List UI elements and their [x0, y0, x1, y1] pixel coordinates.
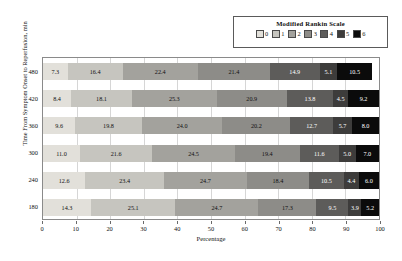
legend-item-5[interactable]: 5 — [337, 30, 350, 38]
legend-item-4[interactable]: 4 — [320, 30, 333, 38]
bar-segment-180-mrs6[interactable]: 5.2 — [361, 199, 378, 216]
legend-label-6: 6 — [362, 30, 365, 38]
bar-segment-420-mrs6[interactable]: 9.2 — [348, 90, 379, 107]
segment-value-label: 24.7 — [211, 204, 222, 211]
segment-value-label: 9.5 — [329, 204, 337, 211]
segment-value-label: 11.6 — [314, 150, 325, 157]
bar-segment-420-mrs3[interactable]: 20.9 — [217, 90, 287, 107]
bar-segment-480-mrs2[interactable]: 22.4 — [123, 63, 198, 80]
legend-item-2[interactable]: 2 — [288, 30, 301, 38]
segment-value-label: 6.0 — [365, 177, 373, 184]
bar-segment-420-mrs2[interactable]: 25.3 — [132, 90, 217, 107]
bar-segment-240-mrs5[interactable]: 4.4 — [344, 172, 359, 189]
bar-segment-480-mrs0[interactable]: 7.3 — [43, 63, 68, 80]
bar-row-240[interactable]: 12.623.424.718.410.54.46.0 — [43, 172, 379, 189]
bar-series-container: 7.316.422.421.414.95.110.58.418.125.320.… — [43, 58, 379, 219]
bar-segment-240-mrs1[interactable]: 23.4 — [85, 172, 164, 189]
bar-segment-300-mrs6[interactable]: 7.0 — [356, 145, 380, 162]
x-tickmark-100 — [380, 221, 381, 224]
bar-segment-300-mrs2[interactable]: 24.5 — [152, 145, 234, 162]
legend-item-1[interactable]: 1 — [272, 30, 285, 38]
bar-segment-180-mrs5[interactable]: 3.9 — [348, 199, 361, 216]
x-tickmark-50 — [211, 221, 212, 224]
x-tick-20: 20 — [106, 225, 112, 232]
bar-segment-360-mrs0[interactable]: 9.6 — [43, 117, 75, 134]
bar-segment-180-mrs1[interactable]: 25.1 — [91, 199, 175, 216]
bar-segment-300-mrs4[interactable]: 11.6 — [300, 145, 339, 162]
segment-value-label: 4.4 — [348, 177, 356, 184]
bar-segment-180-mrs3[interactable]: 17.3 — [258, 199, 316, 216]
stacked-bar-chart: Modified Rankin Scale 0123456 4804203603… — [0, 0, 402, 261]
bar-segment-360-mrs1[interactable]: 19.8 — [75, 117, 142, 134]
bar-segment-240-mrs0[interactable]: 12.6 — [43, 172, 85, 189]
legend-title: Modified Rankin Scale — [234, 20, 387, 27]
bar-row-360[interactable]: 9.619.824.020.212.75.78.0 — [43, 117, 379, 134]
bar-segment-360-mrs4[interactable]: 12.7 — [290, 117, 333, 134]
segment-value-label: 9.6 — [55, 122, 63, 129]
bar-segment-420-mrs0[interactable]: 8.4 — [43, 90, 71, 107]
bar-segment-300-mrs5[interactable]: 5.0 — [339, 145, 356, 162]
x-tick-70: 70 — [275, 225, 281, 232]
bar-segment-300-mrs1[interactable]: 21.6 — [80, 145, 153, 162]
bar-row-180[interactable]: 14.325.124.717.39.53.95.2 — [43, 199, 379, 216]
x-tick-40: 40 — [174, 225, 180, 232]
bar-segment-480-mrs4[interactable]: 14.9 — [270, 63, 320, 80]
bar-segment-480-mrs1[interactable]: 16.4 — [68, 63, 123, 80]
bar-segment-180-mrs0[interactable]: 14.3 — [43, 199, 91, 216]
legend-swatch-3 — [304, 30, 312, 38]
bar-segment-300-mrs3[interactable]: 19.4 — [235, 145, 300, 162]
legend-item-6[interactable]: 6 — [353, 30, 366, 38]
legend-swatch-1 — [272, 30, 280, 38]
legend-swatch-6 — [353, 30, 361, 38]
bar-segment-300-mrs0[interactable]: 11.0 — [43, 145, 80, 162]
bar-segment-360-mrs3[interactable]: 20.2 — [222, 117, 290, 134]
bar-segment-360-mrs6[interactable]: 8.0 — [352, 117, 379, 134]
x-tickmark-30 — [143, 221, 144, 224]
segment-value-label: 12.6 — [59, 177, 70, 184]
y-tick-300: 300 — [28, 149, 38, 156]
segment-value-label: 7.3 — [51, 68, 59, 75]
segment-value-label: 5.7 — [339, 122, 347, 129]
bar-segment-180-mrs2[interactable]: 24.7 — [175, 199, 258, 216]
segment-value-label: 18.1 — [96, 95, 107, 102]
x-tick-10: 10 — [73, 225, 79, 232]
bar-segment-420-mrs4[interactable]: 13.8 — [287, 90, 333, 107]
segment-value-label: 3.9 — [351, 204, 359, 211]
bar-row-300[interactable]: 11.021.624.519.411.65.07.0 — [43, 145, 379, 162]
segment-value-label: 5.2 — [366, 204, 374, 211]
segment-value-label: 22.4 — [155, 68, 166, 75]
bar-segment-480-mrs5[interactable]: 5.1 — [320, 63, 337, 80]
segment-value-label: 17.3 — [282, 204, 293, 211]
segment-value-label: 20.9 — [246, 95, 257, 102]
bar-segment-240-mrs3[interactable]: 18.4 — [247, 172, 309, 189]
x-tick-100: 100 — [375, 225, 385, 232]
bar-segment-420-mrs1[interactable]: 18.1 — [71, 90, 132, 107]
bar-segment-240-mrs2[interactable]: 24.7 — [164, 172, 247, 189]
segment-value-label: 24.7 — [200, 177, 211, 184]
segment-value-label: 21.6 — [111, 150, 122, 157]
segment-value-label: 12.7 — [306, 122, 317, 129]
segment-value-label: 10.5 — [349, 68, 360, 75]
legend-swatch-4 — [320, 30, 328, 38]
segment-value-label: 19.4 — [262, 150, 273, 157]
bar-segment-240-mrs4[interactable]: 10.5 — [309, 172, 344, 189]
bar-row-420[interactable]: 8.418.125.320.913.84.59.2 — [43, 90, 379, 107]
bar-row-480[interactable]: 7.316.422.421.414.95.110.5 — [43, 63, 379, 80]
plot-area: 7.316.422.421.414.95.110.58.418.125.320.… — [42, 57, 380, 220]
segment-value-label: 23.4 — [119, 177, 130, 184]
segment-value-label: 19.8 — [103, 122, 114, 129]
bar-segment-480-mrs3[interactable]: 21.4 — [198, 63, 270, 80]
bar-segment-480-mrs6[interactable]: 10.5 — [337, 63, 372, 80]
legend-item-3[interactable]: 3 — [304, 30, 317, 38]
y-tick-420: 420 — [28, 94, 38, 101]
legend-label-2: 2 — [297, 30, 300, 38]
legend-item-0[interactable]: 0 — [256, 30, 269, 38]
legend-label-4: 4 — [330, 30, 333, 38]
bar-segment-180-mrs4[interactable]: 9.5 — [316, 199, 348, 216]
bar-segment-360-mrs5[interactable]: 5.7 — [333, 117, 352, 134]
bar-segment-240-mrs6[interactable]: 6.0 — [359, 172, 379, 189]
segment-value-label: 20.2 — [251, 122, 262, 129]
bar-segment-420-mrs5[interactable]: 4.5 — [333, 90, 348, 107]
bar-segment-360-mrs2[interactable]: 24.0 — [142, 117, 223, 134]
x-tickmark-80 — [312, 221, 313, 224]
